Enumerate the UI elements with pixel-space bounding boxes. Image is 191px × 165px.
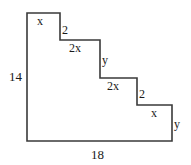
label-fourth-tread-x: x bbox=[151, 107, 157, 119]
label-fourth-riser-y: y bbox=[174, 118, 180, 130]
label-third-riser-2: 2 bbox=[139, 88, 145, 100]
label-bottom-width-18: 18 bbox=[91, 148, 104, 161]
label-top-step-x: x bbox=[37, 15, 43, 27]
staircase-polygon-outline bbox=[27, 13, 172, 141]
label-second-tread-2x: 2x bbox=[69, 42, 81, 54]
label-third-tread-2x: 2x bbox=[107, 80, 119, 92]
staircase-polygon-svg bbox=[0, 0, 191, 165]
label-left-height-14: 14 bbox=[9, 70, 22, 83]
label-second-riser-y: y bbox=[102, 54, 108, 66]
label-first-riser-2: 2 bbox=[62, 24, 68, 36]
staircase-figure: x 2 2x y 2x 2 x y 14 18 bbox=[0, 0, 191, 165]
